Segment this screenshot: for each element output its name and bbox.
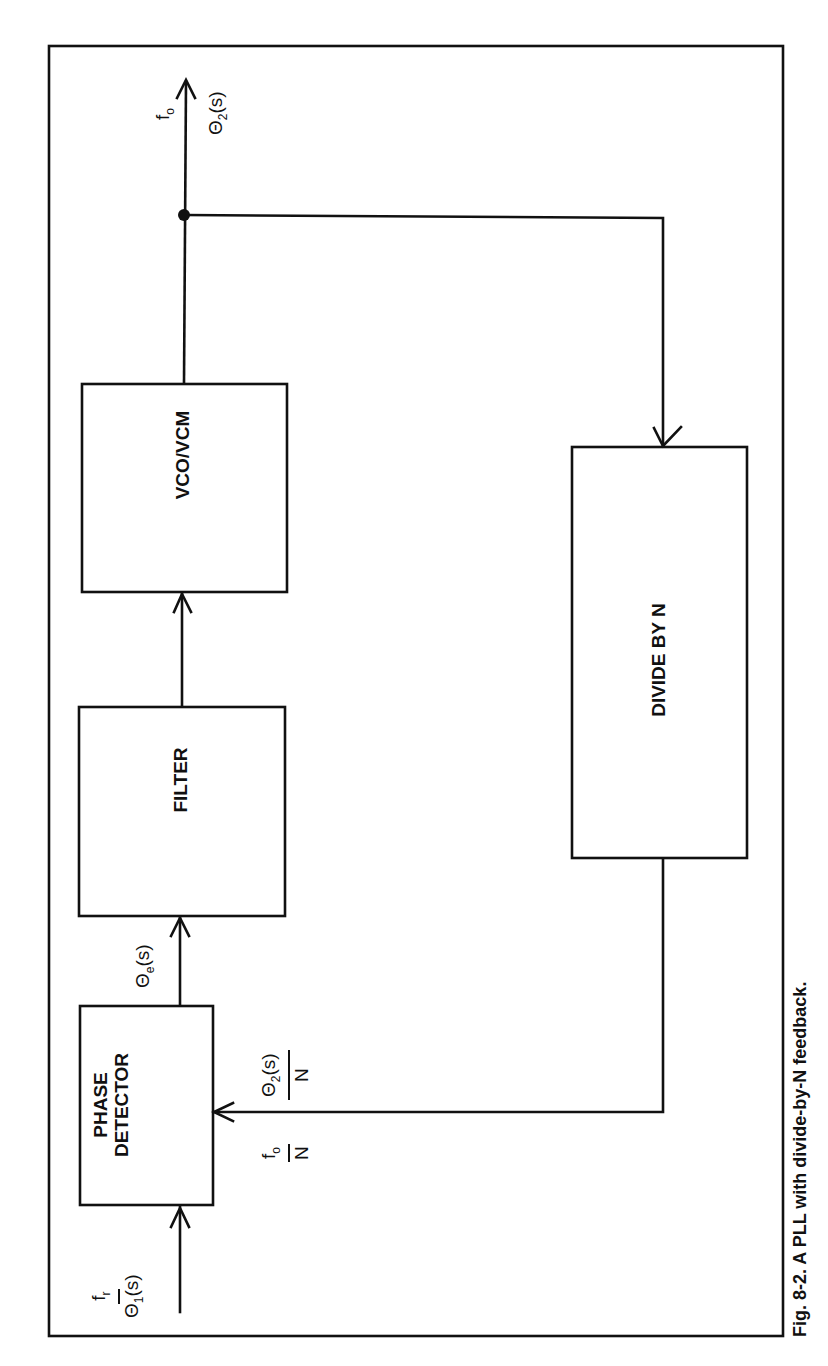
phase-detector-line-2: DETECTOR <box>111 1020 132 1190</box>
output-freq-label: fo <box>152 108 177 120</box>
input-phase: Θ1(s) <box>120 1274 150 1318</box>
junction-dot-icon <box>178 209 190 221</box>
error-phase-label: Θe(s) <box>132 944 157 988</box>
output-line <box>184 82 186 383</box>
filter-label: FILTER <box>170 690 191 870</box>
feedback-freq-label: fo N <box>258 1144 312 1162</box>
input-signal-label: fr Θ1(s) <box>88 1274 150 1318</box>
input-freq: fr <box>88 1289 120 1304</box>
arrow-divider-in-icon <box>654 427 681 446</box>
feedback-tap-line <box>185 215 663 446</box>
output-phase-label: Θ2(s) <box>205 91 230 135</box>
phase-detector-line-1: PHASE <box>90 1020 111 1190</box>
figure-caption: Fig. 8-2. A PLL with divide-by-N feedbac… <box>790 982 811 1337</box>
feedback-phase-label: Θ2(s) N <box>258 1050 312 1100</box>
vco-label: VCO/VCM <box>172 365 193 545</box>
divide-by-n-label: DIVIDE BY N <box>648 560 669 760</box>
figure-frame <box>49 46 783 1336</box>
phase-detector-label: PHASE DETECTOR <box>90 1020 132 1190</box>
